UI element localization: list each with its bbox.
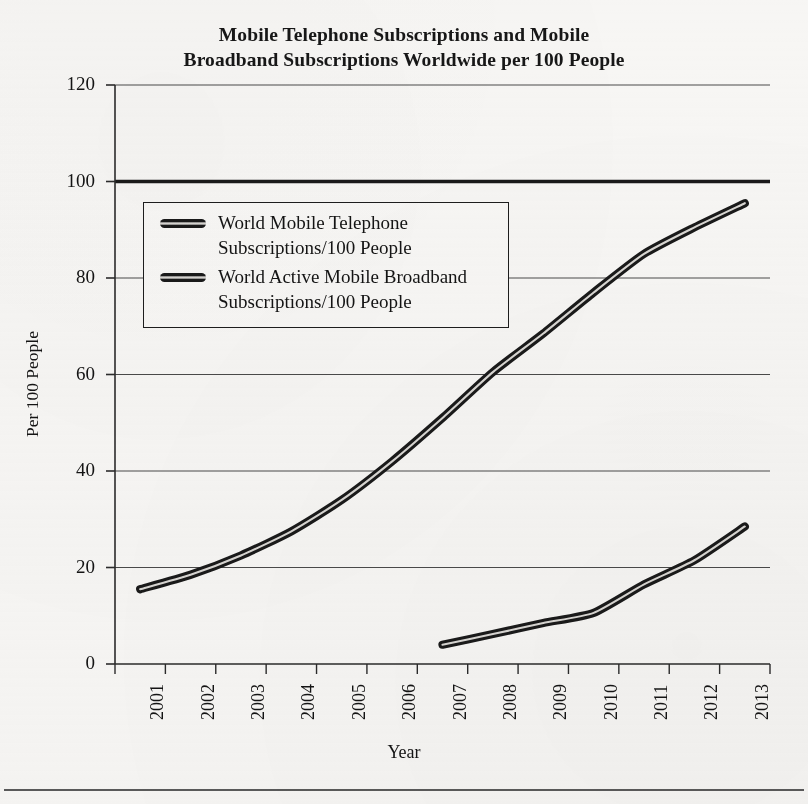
x-tick-label: 2007 [450, 684, 471, 720]
legend-label-line-1: World Active Mobile Broadband [218, 266, 467, 287]
plot-area: 120100806040200 200120022003200420052006… [0, 0, 808, 804]
legend-item-label: World Mobile Telephone Subscriptions/100… [218, 210, 412, 260]
y-axis-label: Per 100 People [22, 331, 43, 437]
legend-label-line-1: World Mobile Telephone [218, 212, 408, 233]
x-axis-label: Year [0, 742, 808, 763]
y-tick-label: 80 [23, 266, 95, 288]
figure-page: Mobile Telephone Subscriptions and Mobil… [0, 0, 808, 804]
y-tick-label: 100 [23, 170, 95, 192]
x-tick-label: 2009 [550, 684, 571, 720]
legend-item-mobile-broadband: World Active Mobile Broadband Subscripti… [154, 264, 500, 314]
legend-label-line-2: Subscriptions/100 People [218, 289, 467, 314]
x-tick-marks [115, 664, 770, 674]
x-tick-label: 2011 [651, 685, 672, 720]
x-tick-label: 2002 [198, 684, 219, 720]
legend-item-mobile-telephone: World Mobile Telephone Subscriptions/100… [154, 210, 500, 260]
x-tick-label: 2012 [701, 684, 722, 720]
data-series-mobile-broadband [443, 526, 745, 644]
y-tick-label: 40 [23, 459, 95, 481]
legend-label-line-2: Subscriptions/100 People [218, 235, 412, 260]
chart-legend: World Mobile Telephone Subscriptions/100… [143, 202, 509, 328]
x-tick-label: 2004 [298, 684, 319, 720]
x-tick-label: 2005 [349, 684, 370, 720]
legend-line-swatch-icon [160, 219, 206, 228]
x-tick-label: 2008 [500, 684, 521, 720]
x-tick-label: 2013 [752, 684, 773, 720]
y-tick-marks [106, 85, 115, 664]
x-tick-label: 2010 [601, 684, 622, 720]
legend-item-label: World Active Mobile Broadband Subscripti… [218, 264, 467, 314]
y-tick-label: 0 [23, 652, 95, 674]
y-tick-label: 20 [23, 556, 95, 578]
x-tick-label: 2006 [399, 684, 420, 720]
x-tick-label: 2001 [147, 684, 168, 720]
legend-line-swatch-icon [160, 273, 206, 282]
y-tick-label: 120 [23, 73, 95, 95]
page-bottom-rule [4, 789, 804, 791]
x-tick-label: 2003 [248, 684, 269, 720]
